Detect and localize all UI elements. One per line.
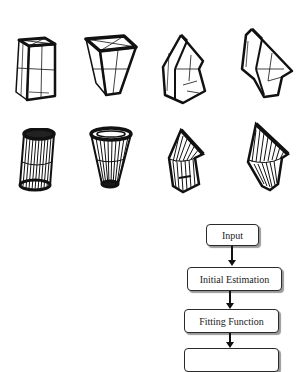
bent-block-model: [161, 31, 209, 105]
flow-step-initial-estimation: Initial Estimation: [187, 267, 282, 291]
flow-step-next: [184, 348, 279, 372]
tapered-block-model: [84, 33, 140, 99]
bent-tapered-cylinder-model: [244, 120, 292, 192]
flow-step-input: Input: [206, 224, 259, 246]
bent-cylinder-model: [165, 126, 207, 194]
rectangular-block-model: [13, 36, 61, 102]
tapered-cylinder-model: [87, 126, 135, 190]
flow-step-fitting-function: Fitting Function: [184, 309, 279, 333]
cylinder-model: [17, 128, 57, 192]
bent-tapered-block-model: [238, 25, 294, 101]
